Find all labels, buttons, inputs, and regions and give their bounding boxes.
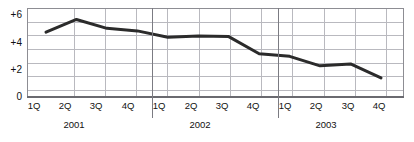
x-axis-group-label-2002: 2002 bbox=[160, 119, 240, 130]
x-axis-tick-3q-2001: 3Q bbox=[81, 100, 111, 111]
x-axis-tick-1q-2002: 1Q bbox=[144, 100, 174, 111]
x-axis-group-label-2001: 2001 bbox=[34, 119, 114, 130]
data-series-line bbox=[27, 8, 404, 97]
line-chart: +6 +4 +2 0 1Q 2Q 3Q 4Q 1Q 2Q 3Q 4Q 1Q 2Q bbox=[0, 0, 414, 142]
x-axis-group-label-2003: 2003 bbox=[286, 119, 366, 130]
x-axis-tick-4q-2001: 4Q bbox=[113, 100, 143, 111]
x-axis-tick-2q-2003: 2Q bbox=[301, 100, 331, 111]
x-axis-tick-2q-2002: 2Q bbox=[176, 100, 206, 111]
x-axis-tick-1q-2001: 1Q bbox=[19, 100, 49, 111]
x-axis-tick-4q-2002: 4Q bbox=[238, 100, 268, 111]
x-axis-tick-3q-2003: 3Q bbox=[333, 100, 363, 111]
x-axis-tick-3q-2002: 3Q bbox=[207, 100, 237, 111]
y-axis-tick-6: +6 bbox=[0, 10, 22, 20]
x-axis-tick-1q-2003: 1Q bbox=[270, 100, 300, 111]
zero-axis-line bbox=[27, 96, 404, 98]
x-axis-tick-2q-2001: 2Q bbox=[50, 100, 80, 111]
y-axis-tick-2: +2 bbox=[0, 65, 22, 75]
x-axis-tick-4q-2003: 4Q bbox=[364, 100, 394, 111]
y-axis-tick-4: +4 bbox=[0, 38, 22, 48]
